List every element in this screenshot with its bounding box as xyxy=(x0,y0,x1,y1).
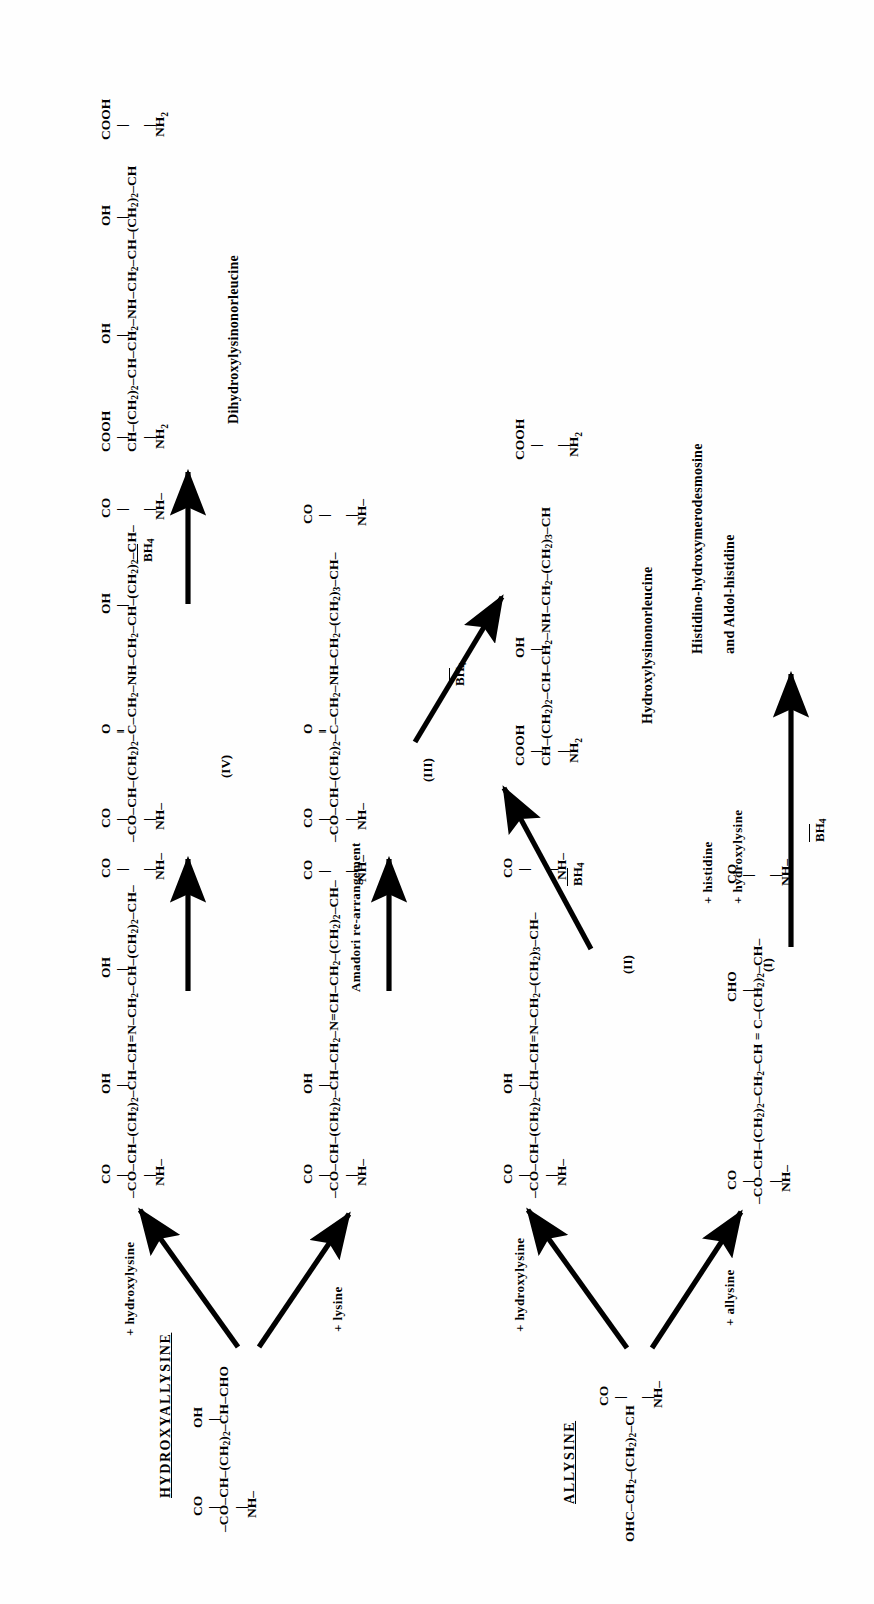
structure-allysine: CO | OHC–CH2–(CH2)2–CH | NH– xyxy=(596,1405,666,1542)
reaction-scheme-canvas: HYDROXYALLYSINE CO OH | | –CO–CH–(CH2)2–… xyxy=(0,0,874,1604)
hln-main-chain: CH–(CH2)2–CH–CH2–NH–CH2–(CH2)3–CH xyxy=(539,507,555,766)
allysine-title: ALLYSINE xyxy=(562,1421,578,1504)
product-name-dhln: Dihydroxylysinonorleucine xyxy=(226,255,242,424)
condition-plus-hydroxylysine-allysine: + hydroxylysine xyxy=(512,1238,528,1332)
dhln-main-chain: CH–(CH2)2–CH–CH2–NH–CH2–CH–(CH2)2–CH xyxy=(125,166,141,452)
hydroxyallysine-title: HYDROXYALLYSINE xyxy=(158,1333,174,1498)
structure-compound-ii: CO OH CO | | | –CO–CH–(CH2)2–CH–CH=N–CH2… xyxy=(500,912,570,1198)
compound-iv-main-chain: –CO–CH–(CH2)2–C–CH2–NH–CH2–CH–(CH2)2–CH– xyxy=(125,525,141,842)
roman-label-iii: (III) xyxy=(420,758,436,782)
roman-label-i: (I) xyxy=(760,958,776,972)
structure-hydroxylysinonorleucine: COOH OH COOH | | | CH–(CH2)2–CH–CH2–NH–C… xyxy=(512,507,582,766)
product-name-hln: Hydroxylysinonorleucine xyxy=(640,566,656,724)
product-name-aldol: and Aldol-histidine xyxy=(722,534,738,654)
structure-schiff-lysine: CO OH CO | | | –CO–CH–(CH2)2–CH–CH2–N=CH… xyxy=(300,880,370,1198)
condition-plus-lysine: + lysine xyxy=(330,1286,346,1332)
structure-schiff-hydroxylysine: CO OH OH CO | | | | –CO–CH–(CH2)2–CH–CH=… xyxy=(98,885,168,1198)
structure-compound-i: CO CHO CO | | | –CO–CH–(CH2)2–CH2–CH = C… xyxy=(724,939,794,1204)
roman-label-iv: (IV) xyxy=(218,755,234,778)
condition-plus-hydroxylysine-histidine: + hydroxylysine xyxy=(730,810,746,904)
structure-compound-iii: CO O CO | ‖ | –CO–CH–(CH2)2–C–CH2–NH–CH2… xyxy=(300,552,370,842)
compound-ii-main-chain: –CO–CH–(CH2)2–CH–CH=N–CH2–(CH2)3–CH– xyxy=(527,912,543,1198)
product-name-histidino: Histidino-hydroxymerodesmosine xyxy=(690,443,706,654)
schiff-hydroxylysine-main-chain: –CO–CH–(CH2)2–CH–CH=N–CH2–CH–(CH2)2–CH– xyxy=(125,885,141,1198)
structure-hydroxyallysine: CO OH | | –CO–CH–(CH2)2–CH–CHO | NH– xyxy=(190,1366,260,1532)
compound-iii-main-chain: –CO–CH–(CH2)2–C–CH2–NH–CH2–(CH2)3–CH– xyxy=(327,552,343,842)
reagent-bh4-i: BH4 xyxy=(812,818,828,842)
roman-label-ii: (II) xyxy=(620,955,636,974)
structure-compound-iv: CO O OH CO | ‖ | | –CO–CH–(CH2)2–C–CH2–N… xyxy=(98,525,168,842)
allysine-main-chain: OHC–CH2–(CH2)2–CH xyxy=(623,1405,639,1542)
condition-plus-hydroxylysine-top: + hydroxylysine xyxy=(122,1242,138,1336)
structure-dihydroxylysinonorleucine: COOH OH OH COOH | | | | CH–(CH2)2–CH–CH2… xyxy=(98,166,168,452)
condition-plus-allysine: + allysine xyxy=(722,1269,738,1326)
reagent-bh4-iv: BH4 xyxy=(140,538,156,562)
hydroxyallysine-title-block: HYDROXYALLYSINE xyxy=(158,1333,174,1498)
condition-plus-histidine: + histidine xyxy=(700,841,716,904)
reagent-bh4-ii: BH4 xyxy=(570,862,586,886)
schiff-lysine-main-chain: –CO–CH–(CH2)2–CH–CH2–N=CH–CH2–(CH2)2–CH– xyxy=(327,880,343,1198)
compound-i-main-chain: –CO–CH–(CH2)2–CH2–CH = C–(CH2)2–CH– xyxy=(751,939,767,1204)
reagent-bh4-iii: BH4 xyxy=(452,662,468,686)
